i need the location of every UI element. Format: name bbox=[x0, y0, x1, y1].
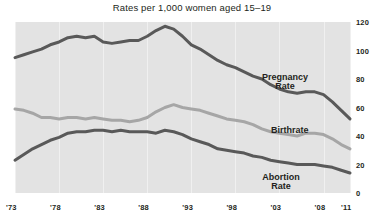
y-tick-100: 100 bbox=[356, 47, 382, 56]
x-tick-98: '98 bbox=[226, 203, 237, 212]
y-tick-20: 20 bbox=[356, 161, 382, 170]
x-tick-08: '08 bbox=[315, 203, 326, 212]
x-tick-78: '78 bbox=[50, 203, 61, 212]
series-label-pregnancy-rate: Pregnancy Rate bbox=[249, 73, 321, 92]
x-tick-73: '73 bbox=[6, 203, 17, 212]
y-tick-40: 40 bbox=[356, 132, 382, 141]
y-tick-0: 0 bbox=[356, 189, 382, 198]
x-tick-03: '03 bbox=[270, 203, 281, 212]
y-tick-60: 60 bbox=[356, 104, 382, 113]
x-tick-83: '83 bbox=[94, 203, 105, 212]
y-tick-80: 80 bbox=[356, 75, 382, 84]
y-tick-120: 120 bbox=[356, 18, 382, 27]
series-label-birthrate: Birthrate bbox=[271, 126, 343, 135]
x-tick-11: '11 bbox=[341, 203, 351, 212]
chart-container: Rates per 1,000 women aged 15–19 1201008… bbox=[0, 0, 384, 220]
x-tick-93: '93 bbox=[182, 203, 193, 212]
series-lines bbox=[0, 0, 384, 220]
x-tick-88: '88 bbox=[138, 203, 149, 212]
series-label-abortion-rate: Abortion Rate bbox=[242, 173, 320, 192]
